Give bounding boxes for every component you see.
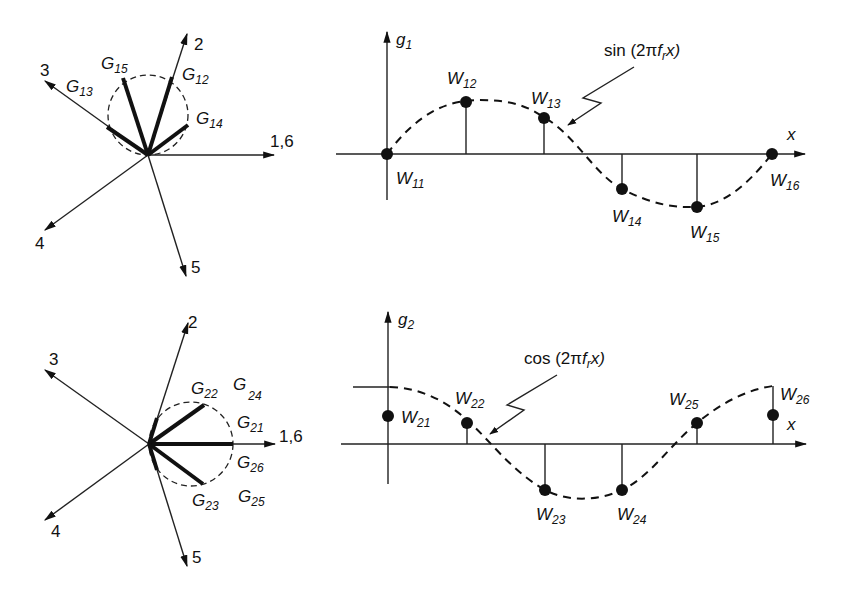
label-w26: W26 xyxy=(780,385,810,407)
arrow-3 xyxy=(45,370,149,444)
arrow-label-3: 3 xyxy=(40,61,49,80)
vector-g15 xyxy=(123,78,148,155)
waveform-top: g1 x W11 W12 W13 W14 W15 W16 sin (2πfrx) xyxy=(336,30,805,245)
vector-g22 xyxy=(149,405,204,444)
sample-w24 xyxy=(616,484,628,496)
arrow-label-3: 3 xyxy=(49,350,58,369)
sample-w26 xyxy=(767,409,779,421)
arrow-label-4: 4 xyxy=(35,234,44,253)
x-axis-label: x xyxy=(786,125,796,144)
arrow-label-5: 5 xyxy=(192,548,201,567)
label-w11: W11 xyxy=(396,169,425,191)
label-w12: W12 xyxy=(447,69,477,91)
sample-w14 xyxy=(616,183,628,195)
waveform-bottom: g2 x W21 W22 W23 W24 W25 W26 cos (2πfrx) xyxy=(341,310,810,527)
sample-w16 xyxy=(766,148,778,160)
label-w25: W25 xyxy=(669,390,699,412)
sample-w12 xyxy=(460,96,472,108)
arrow-4 xyxy=(45,155,148,230)
sample-w21 xyxy=(382,410,394,422)
sin-pointer-arrow xyxy=(568,67,634,125)
label-w22: W22 xyxy=(455,389,485,411)
label-w21: W21 xyxy=(401,408,430,430)
sample-w22 xyxy=(461,417,473,429)
label-g14: G14 xyxy=(196,109,223,131)
label-g24: G24 xyxy=(233,375,262,403)
cos-annotation: cos (2πfrx) xyxy=(524,349,605,371)
y-axis-label: g2 xyxy=(398,310,414,332)
label-g21: G21 xyxy=(237,413,264,435)
label-w14: W14 xyxy=(612,207,642,229)
label-w23: W23 xyxy=(536,505,566,527)
label-g13: G13 xyxy=(66,77,93,99)
label-w13: W13 xyxy=(531,89,561,111)
label-g23: G23 xyxy=(192,491,219,513)
arrow-label-1-6: 1,6 xyxy=(270,132,294,151)
arrow-5 xyxy=(148,155,186,276)
cosine-curve xyxy=(390,386,773,499)
sample-w13 xyxy=(538,112,550,124)
x-axis-label: x xyxy=(786,415,796,434)
arrow-label-2: 2 xyxy=(194,35,203,54)
sample-w25 xyxy=(691,417,703,429)
cos-pointer-arrow xyxy=(490,375,557,434)
label-w24: W24 xyxy=(617,505,647,527)
label-g12: G12 xyxy=(182,65,209,87)
sin-annotation: sin (2πfrx) xyxy=(604,41,680,63)
sample-w15 xyxy=(691,201,703,213)
label-g15: G15 xyxy=(101,54,128,76)
arrow-4 xyxy=(45,444,149,520)
vector-g12 xyxy=(148,77,172,155)
diagram-canvas: 1,6 2 3 4 5 G15 G12 G13 G14 g1 x W11 W12… xyxy=(0,0,850,594)
arrow-label-2: 2 xyxy=(188,313,197,332)
label-g26: G26 xyxy=(237,453,264,475)
phasor-diagram-top: 1,6 2 3 4 5 G15 G12 G13 G14 xyxy=(35,34,294,277)
dashed-circle xyxy=(108,75,188,155)
label-w15: W15 xyxy=(690,223,720,245)
arrow-label-4: 4 xyxy=(51,522,60,541)
arrow-label-1-6: 1,6 xyxy=(279,427,303,446)
label-g25: G25 xyxy=(238,487,265,509)
y-axis-label: g1 xyxy=(396,30,412,52)
arrow-label-5: 5 xyxy=(191,258,200,277)
label-g22: G22 xyxy=(191,379,218,401)
sample-w11 xyxy=(381,148,393,160)
sample-w23 xyxy=(539,484,551,496)
label-w16: W16 xyxy=(770,171,800,193)
phasor-diagram-bottom: 2 3 4 5 1,6 G22 G24 G21 G26 G23 G25 xyxy=(45,313,303,567)
